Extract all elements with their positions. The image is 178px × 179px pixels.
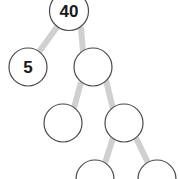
tree-edge xyxy=(81,27,83,52)
tree-edge xyxy=(105,138,113,163)
tree-node-circle xyxy=(44,104,82,142)
tree-node-circle xyxy=(9,48,47,86)
tree-node[interactable] xyxy=(44,104,82,142)
tree-edge xyxy=(39,27,57,52)
tree-node-circle xyxy=(105,104,143,142)
tree-node[interactable]: 5 xyxy=(9,48,47,86)
tree-node[interactable] xyxy=(105,104,143,142)
tree-node-circle xyxy=(76,160,114,179)
tree-svg-canvas: 405 xyxy=(0,0,178,179)
edge-layer xyxy=(39,27,148,163)
binary-tree-diagram: 405 xyxy=(0,0,178,179)
tree-node[interactable] xyxy=(76,160,114,179)
node-layer: 405 xyxy=(9,0,176,179)
tree-edge xyxy=(136,138,148,163)
tree-node[interactable] xyxy=(138,160,176,179)
tree-edge xyxy=(74,82,81,108)
tree-edge xyxy=(106,80,113,109)
tree-node-circle xyxy=(74,48,112,86)
tree-node-circle xyxy=(138,160,176,179)
tree-node[interactable] xyxy=(74,48,112,86)
